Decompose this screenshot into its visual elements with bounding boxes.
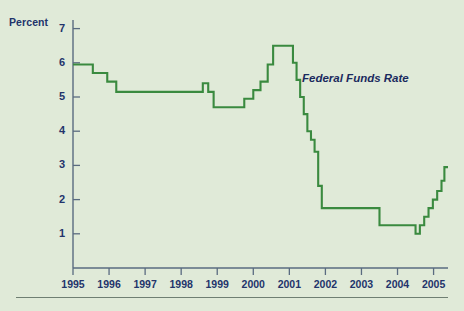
x-tick-label-2002: 2002	[305, 278, 345, 290]
y-tick-label-5: 5	[47, 90, 65, 102]
y-tick-label-7: 7	[47, 22, 65, 34]
y-tick-label-3: 3	[47, 158, 65, 170]
x-tick-label-2003: 2003	[341, 278, 381, 290]
x-tick-label-1998: 1998	[161, 278, 201, 290]
x-tick-marks	[73, 268, 434, 275]
plot-area	[0, 0, 464, 311]
x-tick-label-2001: 2001	[269, 278, 309, 290]
x-tick-label-2005: 2005	[414, 278, 454, 290]
y-tick-label-1: 1	[47, 227, 65, 239]
y-tick-label-4: 4	[47, 124, 65, 136]
x-tick-label-2004: 2004	[378, 278, 418, 290]
x-tick-label-1996: 1996	[89, 278, 129, 290]
y-tick-label-2: 2	[47, 193, 65, 205]
series-annotation-label: Federal Funds Rate	[302, 72, 409, 84]
y-tick-marks	[73, 29, 80, 234]
chart-figure: Percent 7654321 199519961997199819992000…	[0, 0, 464, 311]
x-tick-label-1995: 1995	[53, 278, 93, 290]
x-tick-label-2000: 2000	[233, 278, 273, 290]
x-tick-label-1997: 1997	[125, 278, 165, 290]
y-tick-label-6: 6	[47, 56, 65, 68]
bottom-divider-rule	[16, 297, 448, 298]
y-axis-title: Percent	[9, 16, 48, 28]
x-tick-label-1999: 1999	[197, 278, 237, 290]
